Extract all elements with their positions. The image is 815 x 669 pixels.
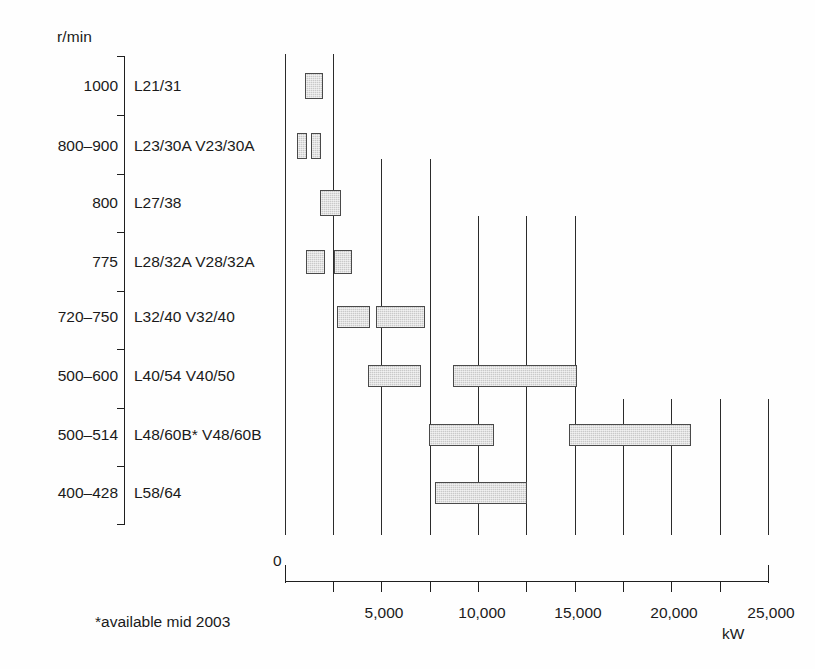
y-axis-unit-label: r/min [57, 28, 92, 46]
gridline-20000 [671, 399, 672, 535]
gridline-7500 [430, 159, 431, 535]
x-axis-tick-22500 [720, 582, 721, 592]
bar-L32-40-b [376, 306, 425, 328]
gridline-22500 [720, 399, 721, 535]
speed-bracket-tick-4 [117, 291, 125, 292]
speed-bracket-tick-6 [117, 408, 125, 409]
x-axis-label-25000: 25,000 [747, 604, 794, 622]
x-axis-zero-label: 0 [273, 552, 282, 570]
x-axis-tick-7500 [430, 582, 431, 592]
speed-bracket-tick-7 [117, 466, 125, 467]
gridline-25000 [768, 399, 769, 535]
x-axis-unit-label: kW [722, 625, 744, 643]
speed-bracket-tick-2 [117, 174, 125, 175]
speed-value-2: 800 [28, 194, 118, 212]
x-axis-tick-12500 [526, 582, 527, 592]
engine-name-3: L28/32A V28/32A [134, 253, 255, 271]
bar-L28-32A-a [306, 250, 325, 274]
gridline-5000 [381, 159, 382, 535]
speed-value-6: 500–514 [28, 426, 118, 444]
speed-value-3: 775 [28, 253, 118, 271]
x-axis-label-15000: 15,000 [554, 604, 601, 622]
speed-value-1: 800–900 [28, 137, 118, 155]
bar-L27-38-a [320, 190, 341, 216]
x-axis-tick-10000 [478, 582, 479, 592]
bar-L28-32A-b [334, 250, 352, 274]
bar-L48-60B-a [429, 424, 494, 446]
bar-L40-54-a [368, 365, 421, 387]
x-axis-tick-15000 [575, 582, 576, 592]
x-axis-line [285, 581, 769, 582]
speed-value-4: 720–750 [28, 308, 118, 326]
speed-value-0: 1000 [28, 77, 118, 95]
bar-L23-30A-b [311, 133, 321, 159]
engine-name-4: L32/40 V32/40 [134, 308, 235, 326]
bar-L23-30A-a [297, 133, 307, 159]
engine-name-6: L48/60B* V48/60B [134, 426, 262, 444]
speed-value-7: 400–428 [28, 484, 118, 502]
x-axis-right-cap [768, 565, 769, 583]
speed-bracket-tick-bottom [117, 524, 125, 525]
footnote-available-mid-2003: *available mid 2003 [95, 613, 230, 631]
speed-value-5: 500–600 [28, 367, 118, 385]
bar-L21-31-a [305, 73, 323, 99]
speed-bracket-tick-top [117, 56, 125, 57]
gridline-0 [285, 54, 286, 535]
engine-name-5: L40/54 V40/50 [134, 367, 235, 385]
x-axis-tick-20000 [671, 582, 672, 592]
x-axis-label-5000: 5,000 [365, 604, 404, 622]
speed-bracket-tick-5 [117, 349, 125, 350]
x-axis-label-10000: 10,000 [458, 604, 505, 622]
x-axis-tick-17500 [623, 582, 624, 592]
engine-programme-chart: r/min 1000 800–900 800 775 720–750 500–6… [0, 0, 815, 669]
engine-name-2: L27/38 [134, 194, 181, 212]
bar-L32-40-a [337, 306, 370, 328]
gridline-17500 [623, 399, 624, 535]
x-axis-tick-5000 [381, 582, 382, 592]
engine-name-7: L58/64 [134, 484, 181, 502]
bar-L48-60B-b [569, 424, 691, 446]
speed-bracket-tick-1 [117, 115, 125, 116]
engine-name-0: L21/31 [134, 77, 181, 95]
bar-L58-64-a [435, 482, 527, 504]
gridline-2500 [333, 54, 334, 535]
x-axis-label-20000: 20,000 [650, 604, 697, 622]
engine-name-1: L23/30A V23/30A [134, 137, 255, 155]
bar-L40-54-b [453, 365, 577, 387]
x-axis-tick-2500 [333, 582, 334, 592]
speed-bracket-tick-3 [117, 232, 125, 233]
